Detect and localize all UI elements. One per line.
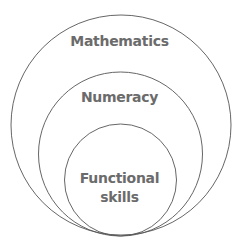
label-mathematics: Mathematics [0, 33, 239, 50]
label-functional: Functional [0, 170, 239, 187]
label-skills: skills [0, 189, 239, 206]
label-numeracy: Numeracy [0, 89, 239, 106]
